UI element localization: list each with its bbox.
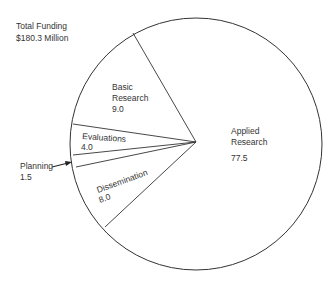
pie-chart: Total Funding $180.3 Million Basic Resea… — [0, 0, 336, 286]
chart-title: Total Funding — [16, 21, 67, 31]
chart-subtitle: $180.3 Million — [16, 33, 69, 43]
label-basic-research-value: 9.0 — [112, 104, 124, 114]
label-basic-research-line1: Basic — [112, 82, 134, 92]
label-planning-value: 1.5 — [20, 172, 32, 182]
label-planning: Planning — [20, 161, 53, 171]
label-applied-research-line2: Research — [231, 137, 268, 147]
label-applied-research-line1: Applied — [231, 126, 260, 136]
label-applied-research-value: 77.5 — [231, 153, 248, 163]
label-evaluations-value: 4.0 — [81, 142, 93, 152]
pie-outline — [70, 18, 322, 270]
label-basic-research-line2: Research — [112, 93, 149, 103]
